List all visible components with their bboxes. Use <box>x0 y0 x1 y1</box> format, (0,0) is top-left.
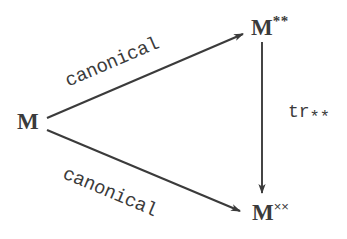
edge-label-tr-subscript: ** <box>310 108 330 127</box>
node-m-doublestar-superscript: ** <box>273 13 289 29</box>
commutative-diagram: M M** M×× canonical canonical tr** <box>0 0 347 239</box>
node-m: M <box>17 110 39 133</box>
node-m-doublestar: M** <box>251 14 289 39</box>
edge-label-tr-doublestar: tr** <box>288 103 330 126</box>
node-m-crosscross: M×× <box>252 200 289 224</box>
node-m-crosscross-base: M <box>252 200 274 225</box>
edge-label-tr-base: tr <box>288 102 310 122</box>
node-m-doublestar-base: M <box>251 15 273 40</box>
node-m-crosscross-superscript: ×× <box>274 199 289 214</box>
node-m-label: M <box>17 109 39 134</box>
